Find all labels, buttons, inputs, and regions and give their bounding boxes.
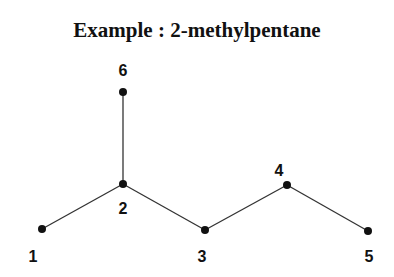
bond-1-2 — [42, 184, 123, 229]
bond-3-4 — [205, 185, 287, 230]
atom-node-3 — [201, 226, 209, 234]
atom-node-2 — [119, 180, 127, 188]
atom-node-4 — [283, 181, 291, 189]
atom-label-2: 2 — [119, 200, 128, 217]
atom-label-3: 3 — [198, 248, 207, 265]
molecule-skeleton-diagram: 123456 — [0, 0, 394, 277]
bond-2-3 — [123, 184, 205, 230]
atom-label-1: 1 — [29, 248, 38, 265]
atom-node-5 — [364, 227, 372, 235]
atom-label-6: 6 — [119, 62, 128, 79]
atom-labels: 123456 — [29, 62, 374, 265]
atom-label-4: 4 — [275, 162, 284, 179]
bond-4-5 — [287, 185, 368, 231]
carbon-atoms — [38, 88, 372, 235]
atom-label-5: 5 — [365, 248, 374, 265]
atom-node-6 — [119, 88, 127, 96]
atom-node-1 — [38, 225, 46, 233]
bond-lines — [42, 92, 368, 231]
